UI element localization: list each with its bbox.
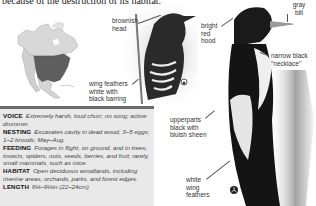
- bird-head: [234, 7, 294, 46]
- leader-gray-bill: [287, 14, 288, 22]
- fact-value: 8¼–9¼in (22–24cm): [32, 183, 89, 190]
- callout-upperparts: upperparts black with bluish sheen: [170, 116, 214, 139]
- fact-habitat: HABITATOpen deciduous woodlands, includi…: [3, 167, 151, 183]
- fact-nesting: NESTINGExcavates cavity in dead wood; 3–…: [3, 128, 151, 144]
- callout-gray-bill: gray bill: [290, 1, 308, 16]
- fact-voice: VOICEExtremely harsh, loud churr; no son…: [3, 112, 151, 128]
- adult-bird-photo: [210, 0, 316, 206]
- map-range: [34, 54, 70, 82]
- species-facts-box: VOICEExtremely harsh, loud churr; no son…: [0, 106, 154, 206]
- callout-white-wing-feathers: white wing feathers: [186, 176, 212, 199]
- fact-feeding: FEEDINGForages in flight, on ground, and…: [3, 144, 151, 168]
- callout-wing-feathers: wing feathers white with black barring: [89, 80, 133, 103]
- map-caribbean: [60, 85, 74, 87]
- fact-label: FEEDING: [3, 144, 31, 151]
- bird-bill: [270, 21, 294, 28]
- fact-value: Extremely harsh, loud churr; no song; ac…: [3, 112, 146, 127]
- callout-narrow-black-necklace: narrow black "necklace": [271, 52, 315, 67]
- callout-brownish-head: brownish head: [112, 17, 138, 32]
- fact-label: LENGTH: [3, 183, 29, 190]
- fact-label: NESTING: [3, 128, 31, 135]
- range-map: [4, 22, 86, 102]
- fact-label: HABITAT: [3, 167, 30, 174]
- fact-label: VOICE: [3, 112, 23, 119]
- map-land-north: [18, 24, 78, 56]
- fact-length: LENGTH8¼–9¼in (22–24cm): [3, 183, 151, 191]
- callout-bright-red-hood: bright red hood: [201, 22, 221, 45]
